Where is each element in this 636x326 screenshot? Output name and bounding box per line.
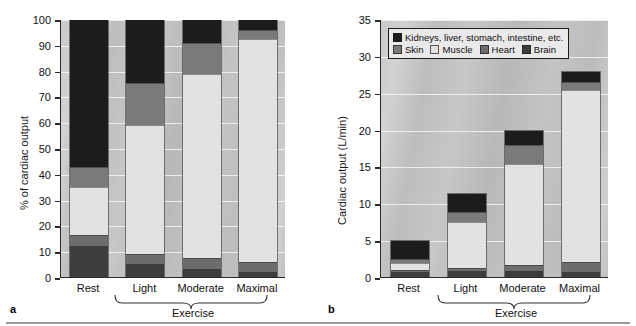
y-tick-mark (55, 252, 60, 254)
bar-rest (390, 240, 430, 277)
y-tick-mark (375, 131, 380, 133)
y-tick-mark (55, 226, 60, 228)
bar-segment (505, 131, 543, 146)
y-tick-mark (375, 278, 380, 280)
bar-light (125, 20, 165, 277)
legend: Kidneys, liver, stomach, intestine, etc.… (388, 28, 569, 59)
legend-item-skin: Skin (393, 44, 423, 55)
y-tick-label: 70 (0, 92, 51, 102)
y-tick-label: 10 (318, 199, 371, 209)
legend-item-kidneys: Kidneys, liver, stomach, intestine, etc. (393, 32, 563, 43)
bar-segment (183, 20, 221, 43)
bar-segment (562, 262, 600, 271)
bar-segment (505, 164, 543, 266)
y-tick-label: 25 (318, 89, 371, 99)
bar-segment (183, 258, 221, 270)
bar-segment (70, 246, 108, 277)
legend-row-2: Skin Muscle Heart Brain (393, 44, 563, 55)
y-tick-label: 20 (318, 126, 371, 136)
legend-label-brain: Brain (534, 44, 556, 55)
legend-label-kidneys: Kidneys, liver, stomach, intestine, etc. (405, 32, 563, 43)
bar-segment (239, 20, 277, 30)
y-tick-mark (375, 204, 380, 206)
figure-root: % of cardiac output 01020304050607080901… (0, 0, 636, 326)
bar-moderate (504, 130, 544, 277)
bar-segment (126, 125, 164, 254)
y-tick-label: 35 (318, 15, 371, 25)
legend-item-brain: Brain (522, 44, 556, 55)
bar-segment (70, 167, 108, 188)
x-tick-label-maximal: Maximal (217, 282, 297, 294)
bar-segment (183, 269, 221, 277)
y-tick-mark (375, 167, 380, 169)
legend-swatch-skin-icon (393, 45, 402, 54)
y-tick-label: 60 (0, 118, 51, 128)
y-tick-label: 0 (318, 273, 371, 283)
bar-segment (126, 264, 164, 277)
y-tick-mark (55, 97, 60, 99)
y-tick-mark (55, 278, 60, 280)
y-tick-mark (55, 72, 60, 74)
y-tick-mark (375, 20, 380, 22)
panel-b-letter: b (328, 303, 335, 315)
bar-segment (448, 212, 486, 221)
bar-maximal (561, 71, 601, 277)
bar-segment (70, 235, 108, 247)
bar-segment (183, 74, 221, 258)
y-tick-label: 0 (0, 273, 51, 283)
y-tick-label: 50 (0, 144, 51, 154)
legend-label-heart: Heart (492, 44, 515, 55)
legend-swatch-kidneys-icon (393, 33, 402, 42)
y-tick-mark (375, 94, 380, 96)
panel-a-letter: a (10, 303, 16, 315)
bar-segment (183, 43, 221, 74)
bar-segment (239, 272, 277, 277)
legend-swatch-muscle-icon (430, 45, 439, 54)
legend-swatch-brain-icon (522, 45, 531, 54)
bar-segment (562, 82, 600, 90)
bar-segment (126, 254, 164, 264)
y-tick-mark (375, 241, 380, 243)
panel-b: Cardiac output (L/min) 05101520253035 Ki… (318, 0, 636, 326)
y-tick-label: 10 (0, 247, 51, 257)
gridline (381, 20, 608, 21)
y-tick-mark (375, 57, 380, 59)
bar-maximal (238, 20, 278, 277)
bar-segment (562, 272, 600, 278)
bar-segment (562, 90, 600, 262)
bar-segment (70, 187, 108, 235)
y-tick-mark (55, 201, 60, 203)
y-tick-mark (55, 175, 60, 177)
y-tick-label: 40 (0, 170, 51, 180)
bar-light (447, 193, 487, 277)
panel-b-group-label: Exercise (456, 307, 576, 319)
y-tick-mark (55, 123, 60, 125)
y-tick-label: 80 (0, 67, 51, 77)
bar-segment (505, 271, 543, 277)
bar-segment (126, 20, 164, 83)
bar-segment (562, 72, 600, 82)
legend-item-muscle: Muscle (430, 44, 472, 55)
legend-label-skin: Skin (405, 44, 423, 55)
bar-rest (69, 20, 109, 277)
bar-moderate (182, 20, 222, 277)
bar-segment (239, 30, 277, 39)
panel-a-plot-area (60, 20, 285, 278)
y-tick-mark (55, 20, 60, 22)
legend-label-muscle: Muscle (442, 44, 472, 55)
y-tick-label: 20 (0, 221, 51, 231)
bar-segment (505, 145, 543, 163)
legend-swatch-heart-icon (480, 45, 489, 54)
y-tick-mark (55, 149, 60, 151)
y-tick-label: 15 (318, 162, 371, 172)
legend-item-heart: Heart (480, 44, 515, 55)
bar-segment (391, 263, 429, 270)
bar-segment (448, 222, 486, 269)
y-tick-label: 30 (318, 52, 371, 62)
y-tick-label: 90 (0, 41, 51, 51)
panel-a: % of cardiac output 01020304050607080901… (0, 0, 318, 326)
bar-segment (239, 39, 277, 261)
bar-segment (70, 20, 108, 166)
bar-segment (126, 83, 164, 125)
bar-segment (391, 272, 429, 277)
